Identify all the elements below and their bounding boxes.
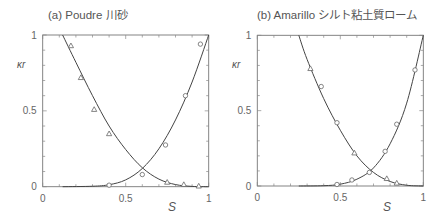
circle-marker [383, 149, 387, 153]
panel-b-xlabel: S [383, 200, 391, 214]
panel-a: (a) Poudre 川砂 κr S 00.5100.51 [17, 9, 212, 214]
triangle-marker [308, 66, 313, 71]
panel-a-title: (a) Poudre 川砂 [48, 9, 129, 21]
triangle-marker [181, 182, 186, 187]
circle-marker [319, 84, 323, 88]
y-tick-label: 0.5 [237, 105, 251, 116]
fit-curve [299, 35, 424, 186]
circle-marker [163, 143, 167, 147]
circle-marker [140, 172, 144, 176]
panel-a-ylabel: κr [17, 59, 26, 70]
x-tick-label: 1 [421, 192, 427, 203]
plot-frame [43, 35, 209, 187]
circle-marker [183, 93, 187, 97]
circle-marker [413, 68, 417, 72]
triangle-marker [352, 150, 357, 155]
y-tick-label: 0.5 [23, 105, 37, 116]
triangle-marker [384, 176, 389, 181]
y-tick-label: 0 [246, 181, 252, 192]
panel-b-title: (b) Amarillo シルト粘土質ローム [257, 8, 417, 21]
plot-frame [257, 35, 423, 186]
panel-b-ylabel: κr [232, 59, 241, 70]
circle-marker [335, 121, 339, 125]
fit-curve [63, 35, 209, 187]
circle-marker [335, 182, 339, 186]
circle-marker [107, 183, 111, 187]
circle-marker [367, 170, 371, 174]
x-tick-label: 0 [255, 192, 261, 203]
circle-marker [350, 178, 354, 182]
fit-curve [63, 35, 209, 187]
triangle-marker [92, 107, 97, 112]
panel-b: (b) Amarillo シルト粘土質ローム κr S 00.5100.51 [232, 8, 427, 214]
triangle-marker [107, 131, 112, 136]
x-tick-label: 1 [206, 193, 212, 204]
figure: (a) Poudre 川砂 κr S 00.5100.51 (b) Amaril… [0, 0, 442, 221]
x-tick-label: 0 [40, 193, 46, 204]
panel-a-xlabel: S [168, 200, 176, 214]
triangle-marker [196, 183, 201, 188]
x-tick-label: 0.5 [119, 193, 133, 204]
circle-marker [395, 122, 399, 126]
circle-marker [198, 42, 202, 46]
y-tick-label: 0 [31, 181, 37, 192]
x-tick-label: 0.5 [333, 192, 347, 203]
y-tick-label: 1 [31, 30, 37, 41]
y-tick-label: 1 [246, 30, 252, 41]
triangle-marker [68, 43, 73, 48]
